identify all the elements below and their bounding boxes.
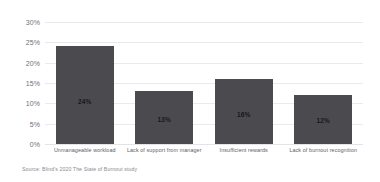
bar-series: 24%13%16%12%	[45, 22, 363, 144]
x-axis-tick-label: Unmanageable workload	[45, 147, 125, 153]
y-axis-tick-label: 5%	[30, 120, 40, 127]
source-note: Source: Blind's 2020 The State of Burnou…	[22, 166, 137, 172]
bar-slot: 24%	[56, 22, 114, 144]
bar-value-label: 13%	[135, 116, 193, 123]
y-axis-tick-label: 0%	[30, 141, 40, 148]
bar-slot: 16%	[215, 22, 273, 144]
y-axis-tick-label: 20%	[26, 59, 40, 66]
bar-value-label: 24%	[56, 98, 114, 105]
y-axis: 30%25%20%15%10%5%0%	[8, 22, 42, 144]
bar-value-label: 12%	[294, 117, 352, 124]
bar[interactable]: 12%	[294, 95, 352, 144]
y-axis-tick-label: 10%	[26, 100, 40, 107]
x-axis: Unmanageable workloadLack of support fro…	[45, 147, 363, 159]
bar-value-label: 16%	[215, 111, 273, 118]
x-axis-tick-label: Lack of support from manager	[125, 147, 205, 153]
x-axis-tick-label: Lack of burnout recognition	[284, 147, 364, 153]
chart-title-strip	[0, 0, 380, 11]
burnout-bar-chart: 30%25%20%15%10%5%0% 24%13%16%12% Unmanag…	[0, 0, 380, 182]
y-axis-tick-label: 25%	[26, 39, 40, 46]
bar[interactable]: 16%	[215, 79, 273, 144]
gridline	[45, 144, 363, 145]
bar-slot: 12%	[294, 22, 352, 144]
y-axis-tick-label: 30%	[26, 19, 40, 26]
bar-slot: 13%	[135, 22, 193, 144]
y-axis-tick-label: 15%	[26, 80, 40, 87]
x-axis-tick-label: Insufficient rewards	[204, 147, 284, 153]
bar[interactable]: 13%	[135, 91, 193, 144]
plot-area: 24%13%16%12%	[45, 22, 363, 144]
bar[interactable]: 24%	[56, 46, 114, 144]
